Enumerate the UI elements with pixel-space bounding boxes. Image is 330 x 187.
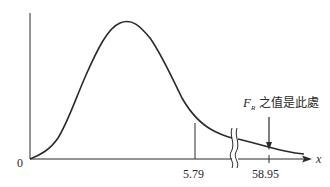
tick-label-critical: 5.79 xyxy=(183,167,204,181)
density-curve-right xyxy=(238,139,304,154)
f-distribution-chart: 0 5.79 58.95 x F R 之值是此處 xyxy=(0,0,330,187)
origin-label: 0 xyxy=(17,156,23,170)
density-curve-left xyxy=(30,21,232,159)
tick-label-observed: 58.95 xyxy=(252,167,279,181)
annotation-subscript: R xyxy=(250,104,256,112)
axis-break-icon-2 xyxy=(235,128,238,168)
x-axis-label: x xyxy=(315,152,322,166)
annotation-text: 之值是此處 xyxy=(259,95,319,110)
axis-break-icon xyxy=(230,128,233,168)
